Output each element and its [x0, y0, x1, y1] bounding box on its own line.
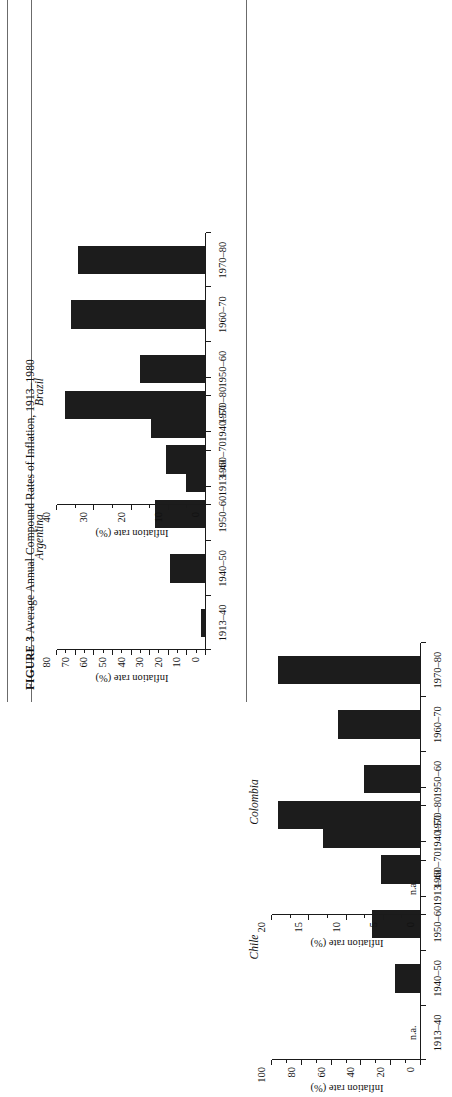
x-tick-label: 1940–50	[217, 405, 228, 442]
y-tick-label: 20	[115, 512, 126, 523]
y-tick-minor	[65, 650, 66, 653]
y-tick-minor	[103, 650, 104, 653]
bar-colombia-1970-80	[278, 656, 420, 684]
bar-colombia-1940-50	[323, 819, 420, 847]
y-tick-label: 40	[115, 657, 126, 668]
plot-area-colombia: 05101520Inflation rate (%)1913–40n.a.194…	[272, 643, 421, 915]
y-tick-label: 60	[315, 1067, 326, 1078]
y-tick-minor	[158, 650, 159, 653]
bar-brazil-1970-80	[78, 246, 205, 274]
na-label: n.a.	[407, 1026, 418, 1040]
x-tick-label: 1913–40	[432, 869, 443, 906]
y-tick-minor	[290, 915, 291, 918]
y-axis-line	[272, 1059, 421, 1060]
y-tick-major	[271, 1060, 272, 1065]
y-tick-minor	[401, 915, 402, 918]
y-tick-label: 0	[405, 922, 416, 927]
x-tick-label: 1913–40	[217, 604, 228, 641]
y-tick-label: 50	[96, 657, 107, 668]
x-tick	[206, 341, 211, 342]
y-tick-label: 80	[41, 657, 52, 668]
y-axis-label: Inflation rate (%)	[72, 673, 192, 684]
y-tick-major	[390, 1060, 391, 1065]
y-tick-major	[420, 1060, 421, 1065]
y-tick-minor	[84, 650, 85, 653]
x-tick	[421, 1005, 426, 1006]
y-tick-label: 10	[152, 512, 163, 523]
bar-brazil-1913-40	[186, 464, 205, 492]
y-tick-major	[420, 915, 421, 920]
x-tick-label: 1960–70	[432, 706, 443, 743]
y-tick-major	[383, 915, 384, 920]
x-tick	[421, 696, 426, 697]
panel-title-colombia: Colombia	[248, 637, 260, 967]
bar-brazil-1960-70	[71, 300, 205, 328]
x-tick	[206, 286, 211, 287]
x-tick-label: 1913–40	[217, 459, 228, 496]
y-tick-minor	[316, 1060, 317, 1063]
y-tick-label: 60	[78, 657, 89, 668]
y-tick-major	[346, 915, 347, 920]
y-tick-minor	[286, 1060, 287, 1063]
y-tick-minor	[177, 650, 178, 653]
x-tick-label: 1940–50	[432, 815, 443, 852]
y-tick-label: 30	[78, 512, 89, 523]
y-tick-label: 10	[330, 922, 341, 933]
y-tick-minor	[140, 650, 141, 653]
y-tick-minor	[149, 505, 150, 508]
y-tick-major	[186, 650, 187, 655]
y-tick-major	[131, 505, 132, 510]
x-tick-label: 1960–70	[217, 296, 228, 333]
bar-colombia-1960-70	[338, 710, 420, 738]
y-axis-label: Inflation rate (%)	[287, 938, 407, 949]
x-tick-label: 1913–40	[432, 1014, 443, 1051]
bar-chile-1940-50	[395, 964, 420, 992]
bar-colombia-1950-60	[364, 765, 420, 793]
x-tick-label: 1950–60	[432, 761, 443, 798]
y-tick-minor	[186, 505, 187, 508]
y-axis-line	[272, 914, 421, 915]
x-tick	[206, 504, 211, 505]
y-tick-label: 40	[345, 1067, 356, 1078]
y-tick-major	[93, 505, 94, 510]
y-tick-major	[131, 650, 132, 655]
y-tick-major	[360, 1060, 361, 1065]
y-tick-label: 20	[152, 657, 163, 668]
bar-brazil-1950-60	[140, 355, 205, 383]
x-tick-label: 1950–60	[217, 351, 228, 388]
x-axis-line	[205, 233, 206, 505]
y-tick-label: 5	[367, 922, 378, 927]
x-tick-label: 1970–80	[432, 652, 443, 689]
panel-title-brazil: Brazil	[33, 227, 45, 557]
y-tick-label: 0	[190, 512, 201, 517]
chart-panel-colombia: Colombia05101520Inflation rate (%)1913–4…	[246, 637, 451, 967]
y-tick-major	[168, 650, 169, 655]
y-tick-minor	[405, 1060, 406, 1063]
y-tick-major	[301, 1060, 302, 1065]
y-tick-label: 20	[375, 1067, 386, 1078]
y-tick-minor	[112, 505, 113, 508]
y-tick-major	[112, 650, 113, 655]
y-tick-label: 70	[59, 657, 70, 668]
y-tick-minor	[196, 650, 197, 653]
x-tick	[206, 649, 211, 650]
x-tick	[421, 805, 426, 806]
y-axis-line	[57, 504, 206, 505]
y-tick-major	[205, 650, 206, 655]
y-axis-line	[57, 649, 206, 650]
y-tick-minor	[75, 505, 76, 508]
bar-argentina-1940-50	[170, 554, 205, 582]
x-tick	[421, 642, 426, 643]
y-tick-major	[168, 505, 169, 510]
x-tick	[421, 751, 426, 752]
y-tick-major	[308, 915, 309, 920]
y-tick-label: 40	[41, 512, 52, 523]
y-tick-label: 30	[134, 657, 145, 668]
y-tick-minor	[375, 1060, 376, 1063]
x-tick	[206, 395, 211, 396]
y-axis-label: Inflation rate (%)	[72, 528, 192, 539]
x-axis-line	[420, 643, 421, 915]
panel-divider-rule	[246, 0, 247, 702]
y-tick-minor	[121, 650, 122, 653]
x-tick	[206, 595, 211, 596]
